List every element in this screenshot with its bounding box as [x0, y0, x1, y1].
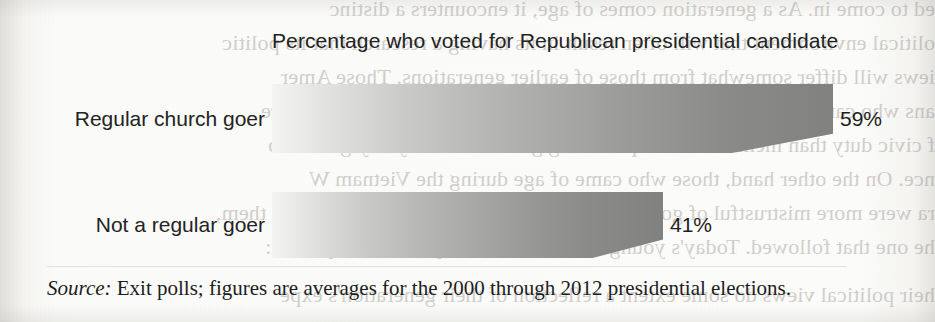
- bar-category-label: Not a regular goer: [96, 213, 265, 237]
- source-note: Source: Exit polls; figures are averages…: [47, 276, 791, 301]
- figure-scan: ed to come in. As a generation comes of …: [0, 0, 935, 322]
- bar-rect: [272, 192, 663, 258]
- source-label: Source:: [47, 276, 112, 300]
- source-text: Exit polls; figures are averages for the…: [112, 276, 791, 300]
- bar-category-label: Regular church goer: [75, 107, 265, 131]
- chart-content: Percentage who voted for Republican pres…: [0, 0, 935, 322]
- chart-title: Percentage who voted for Republican pres…: [272, 29, 838, 53]
- bar-value-label: 41%: [670, 213, 712, 237]
- bar-row: Regular church goer 59%: [0, 84, 935, 153]
- bar-track: [272, 192, 663, 258]
- bar-value-label: 59%: [840, 107, 882, 131]
- bar-track: [272, 84, 833, 153]
- source-divider: [47, 266, 847, 267]
- bar-row: Not a regular goer 41%: [0, 192, 935, 258]
- bar-rect: [272, 84, 833, 153]
